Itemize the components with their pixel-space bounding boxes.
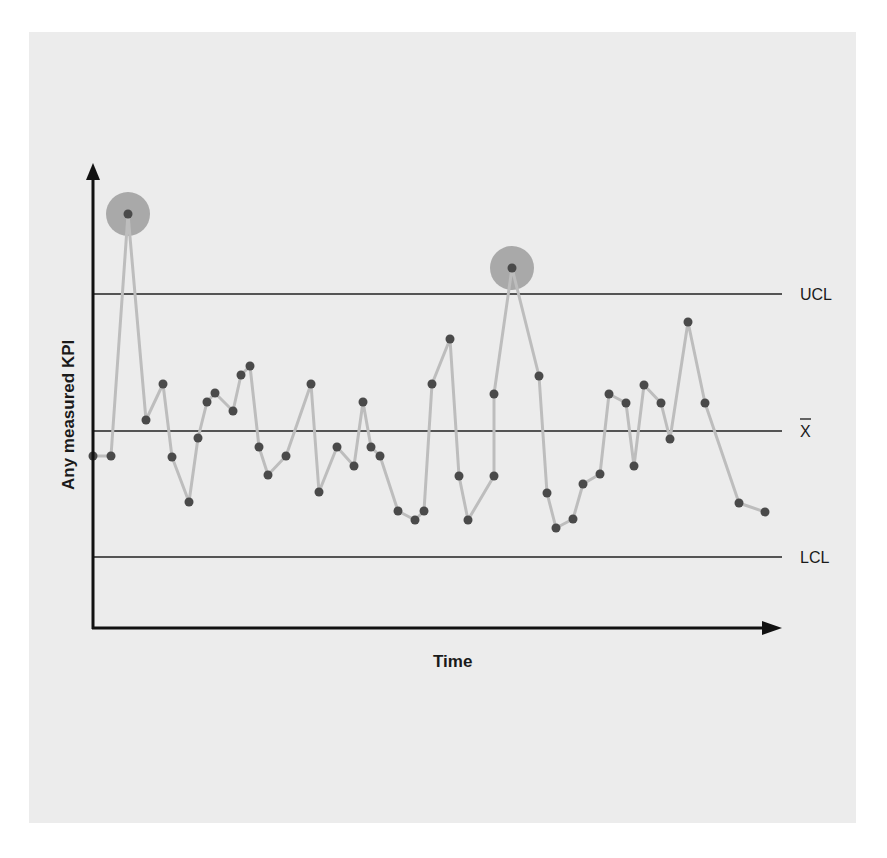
x-axis-arrow-icon — [762, 621, 782, 635]
data-point — [508, 264, 517, 273]
mean-label: X — [800, 423, 811, 440]
data-point — [630, 462, 639, 471]
data-point — [411, 516, 420, 525]
control-chart: UCL X LCL Time Any measured KPI — [0, 0, 887, 858]
data-point — [168, 453, 177, 462]
data-point — [264, 471, 273, 480]
data-point — [107, 452, 116, 461]
data-point — [203, 398, 212, 407]
data-point — [194, 434, 203, 443]
data-point — [282, 452, 291, 461]
data-point — [142, 416, 151, 425]
data-point — [185, 498, 194, 507]
data-point — [552, 524, 561, 533]
data-point — [446, 335, 455, 344]
data-point — [535, 372, 544, 381]
data-point — [761, 508, 770, 517]
x-axis-label: Time — [433, 652, 472, 671]
data-point — [367, 443, 376, 452]
data-point — [490, 472, 499, 481]
data-point — [657, 399, 666, 408]
data-point — [455, 472, 464, 481]
data-point — [666, 435, 675, 444]
ucl-label: UCL — [800, 286, 832, 303]
data-point — [350, 462, 359, 471]
data-point — [246, 362, 255, 371]
data-point — [490, 390, 499, 399]
data-point — [569, 515, 578, 524]
data-point — [333, 443, 342, 452]
data-point — [543, 489, 552, 498]
data-point — [376, 452, 385, 461]
lcl-label: LCL — [800, 549, 829, 566]
data-point — [211, 389, 220, 398]
data-point — [464, 516, 473, 525]
data-point — [596, 470, 605, 479]
data-point — [237, 371, 246, 380]
data-point — [159, 380, 168, 389]
data-point — [640, 381, 649, 390]
data-point — [307, 380, 316, 389]
data-point — [684, 318, 693, 327]
data-point — [229, 407, 238, 416]
data-point — [359, 398, 368, 407]
data-point — [701, 399, 710, 408]
data-point — [605, 390, 614, 399]
data-point — [124, 210, 133, 219]
y-axis-label: Any measured KPI — [59, 340, 78, 490]
outlier-halos — [106, 192, 534, 290]
data-point — [315, 488, 324, 497]
data-point — [420, 507, 429, 516]
data-point — [579, 480, 588, 489]
data-point — [622, 399, 631, 408]
kpi-data-line — [93, 214, 765, 528]
data-point — [735, 499, 744, 508]
data-point — [428, 380, 437, 389]
data-point — [394, 507, 403, 516]
data-point — [255, 443, 264, 452]
y-axis-arrow-icon — [86, 163, 100, 180]
